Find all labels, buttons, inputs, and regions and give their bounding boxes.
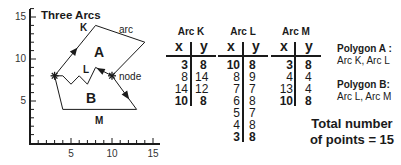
label-b: B (86, 90, 96, 106)
arc-k-arrow-icon (70, 48, 78, 56)
total-line-1: Total number (302, 116, 401, 132)
header-rule (271, 55, 321, 57)
column-divider (190, 42, 192, 106)
polygon-a-title: Polygon A : (337, 43, 392, 55)
label-k: K (80, 22, 88, 33)
table-cell: 3 (218, 130, 240, 144)
arc-m-title: Arc M (271, 26, 321, 37)
label-a: A (94, 44, 104, 60)
col-x-header: x (169, 38, 189, 54)
polygon-a-arcs: Arc K, Arc L (337, 55, 392, 67)
polygon-a-legend: Polygon A : Arc K, Arc L (337, 43, 392, 67)
col-y-header: y (246, 38, 266, 54)
y-tick-5: 5 (20, 95, 26, 106)
table-cell: 8 (305, 94, 327, 108)
arc-l-title: Arc L (218, 26, 268, 37)
polygon-b-legend: Polygon B: Arc L, Arc M (337, 79, 391, 103)
arc-k-table: Arc K x y 3 8 8 14 14 12 10 8 (166, 26, 216, 146)
col-x-header: x (221, 38, 241, 54)
column-divider (242, 42, 244, 142)
y-tick-10: 10 (15, 53, 27, 64)
col-y-header: y (299, 38, 319, 54)
x-tick-15: 15 (147, 148, 159, 159)
x-tick-10: 10 (106, 148, 118, 159)
table-cell: 8 (249, 130, 271, 144)
axis-tick-labels: 15 10 5 5 10 15 (15, 11, 159, 159)
arc-m-arrow-icon (122, 90, 130, 99)
col-x-header: x (274, 38, 294, 54)
col-y-header: y (194, 38, 214, 54)
x-tick-5: 5 (68, 148, 74, 159)
table-cell: 10 (271, 94, 293, 108)
diagram-title: Three Arcs (41, 9, 101, 21)
node-star-icon (51, 72, 59, 80)
arc-l-table: Arc L x y 10 8 8 9 7 7 6 8 5 7 4 8 3 8 (218, 26, 268, 146)
label-node: node (119, 71, 142, 82)
label-arc: arc (119, 24, 133, 35)
label-m: M (95, 115, 103, 126)
arc-l-arrow-icon (97, 68, 106, 75)
column-divider (294, 42, 296, 106)
three-arcs-diagram: 15 10 5 5 10 15 Three Arcs K arc A L no (0, 0, 170, 165)
total-points: Total number of points = 15 (302, 116, 401, 148)
table-cell: 10 (166, 94, 188, 108)
arc-k-title: Arc K (166, 26, 216, 37)
node-star-icon (108, 72, 116, 80)
y-tick-15: 15 (15, 11, 27, 22)
label-l: L (83, 64, 89, 75)
total-line-2: of points = 15 (302, 132, 401, 148)
polygon-b-arcs: Arc L, Arc M (337, 91, 391, 103)
polygon-b-title: Polygon B: (337, 79, 391, 91)
